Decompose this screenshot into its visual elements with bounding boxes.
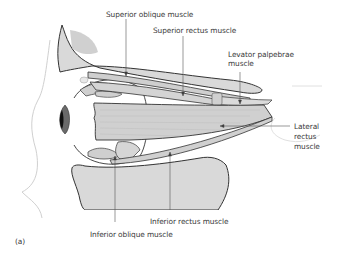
label-inferior-oblique: Inferior oblique muscle <box>90 230 173 239</box>
label-inferior-rectus: Inferior rectus muscle <box>150 217 228 226</box>
label-superior-rectus: Superior rectus muscle <box>153 26 236 35</box>
label-lateral-rectus-line2: rectus <box>294 132 316 141</box>
anatomy-illustration <box>0 0 337 267</box>
label-lateral-rectus-line1: Lateral <box>294 122 319 131</box>
label-lateral-rectus-line3: muscle <box>294 142 320 151</box>
label-levator-palpebrae-line2: muscle <box>228 59 254 68</box>
lower-orbital-bone <box>72 157 229 210</box>
label-superior-oblique: Superior oblique muscle <box>106 10 193 19</box>
upper-bone-patch <box>70 30 98 54</box>
eye-muscles-diagram: Superior oblique muscle Superior rectus … <box>0 0 337 267</box>
panel-label: (a) <box>15 237 25 246</box>
face-profile-outline <box>22 40 50 218</box>
label-levator-palpebrae-line1: Levator palpebrae <box>228 50 294 59</box>
muscle-sheath <box>212 93 222 105</box>
